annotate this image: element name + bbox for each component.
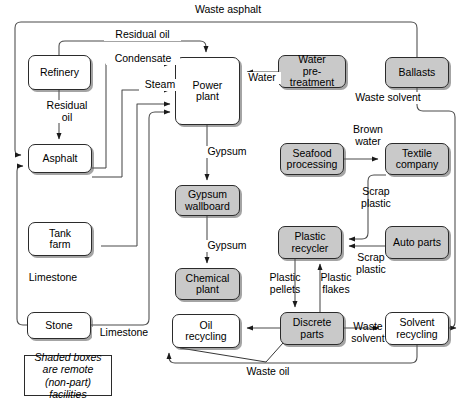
flow-label-gypsum-lower: Gypsum [202,240,252,252]
node-oil-recycling[interactable]: Oil recycling [172,314,240,348]
legend-box: Shaded boxes are remote (non-part) facil… [24,355,112,396]
flow-label-plastic-flakes: Plastic flakes [313,272,359,295]
flow-label-brown-water: Brown water [346,124,390,147]
node-ballasts[interactable]: Ballasts [385,57,449,88]
flow-label-gypsum-upper: Gypsum [202,146,252,158]
flow-label-water: Water [243,72,281,84]
flow-label-waste-solvent-bottom: Waste solvent [345,321,391,344]
node-chemical-plant[interactable]: Chemical plant [175,268,240,300]
flow-label-scrap-plastic-upper: Scrap plastic [354,186,398,209]
flow-label-waste-solvent-top: Waste solvent [344,92,432,104]
flow-label-plastic-pellets: Plastic pellets [262,272,308,295]
node-auto-parts[interactable]: Auto parts [385,226,449,259]
node-power-plant[interactable]: Power plant [175,57,240,125]
diagram-canvas: Refinery Asphalt Tank farm Stone Power p… [0,0,476,420]
flow-label-condensate: Condensate [106,53,180,65]
node-textile-company[interactable]: Textile company [385,143,449,175]
flow-label-limestone-vertical: Limestone [21,272,85,284]
node-stone[interactable]: Stone [27,312,91,339]
node-plastic-recycler[interactable]: Plastic recycler [278,226,342,259]
flow-label-waste-oil: Waste oil [237,366,299,378]
node-water-pre-treatment[interactable]: Water pre-treatment [278,55,346,88]
node-tank-farm[interactable]: Tank farm [28,222,92,256]
flow-label-residual-oil-vertical: Residual oil [41,100,93,123]
flow-label-waste-asphalt: Waste asphalt [182,4,274,16]
node-asphalt[interactable]: Asphalt [28,144,92,173]
node-refinery[interactable]: Refinery [28,55,91,90]
flow-label-limestone-horizontal: Limestone [92,327,156,339]
node-solvent-recycling[interactable]: Solvent recycling [385,312,449,345]
node-gypsum-wallboard[interactable]: Gypsum wallboard [175,185,240,216]
flow-label-steam: Steam [139,79,181,91]
node-seafood-processing[interactable]: Seafood processing [280,143,344,175]
flow-label-residual-oil-top: Residual oil [104,29,181,41]
node-discrete-parts[interactable]: Discrete parts [280,312,344,345]
